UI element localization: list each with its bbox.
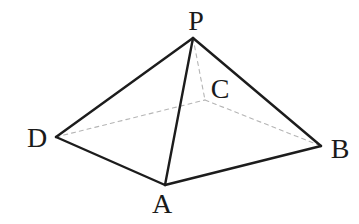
edge-PA bbox=[165, 38, 193, 185]
pyramid-figure-canvas: PABCD bbox=[0, 0, 359, 224]
edge-AB bbox=[165, 146, 321, 185]
pyramid-diagram: PABCD bbox=[0, 0, 359, 224]
vertex-label-B: B bbox=[331, 133, 350, 164]
edge-CB-hidden bbox=[205, 100, 321, 146]
edge-PD bbox=[56, 38, 193, 137]
edge-DC-hidden bbox=[56, 100, 205, 137]
edge-DA bbox=[56, 137, 165, 185]
vertex-label-D: D bbox=[27, 122, 47, 153]
vertex-label-C: C bbox=[211, 73, 230, 104]
vertex-label-P: P bbox=[188, 5, 204, 36]
vertex-label-A: A bbox=[152, 188, 173, 219]
